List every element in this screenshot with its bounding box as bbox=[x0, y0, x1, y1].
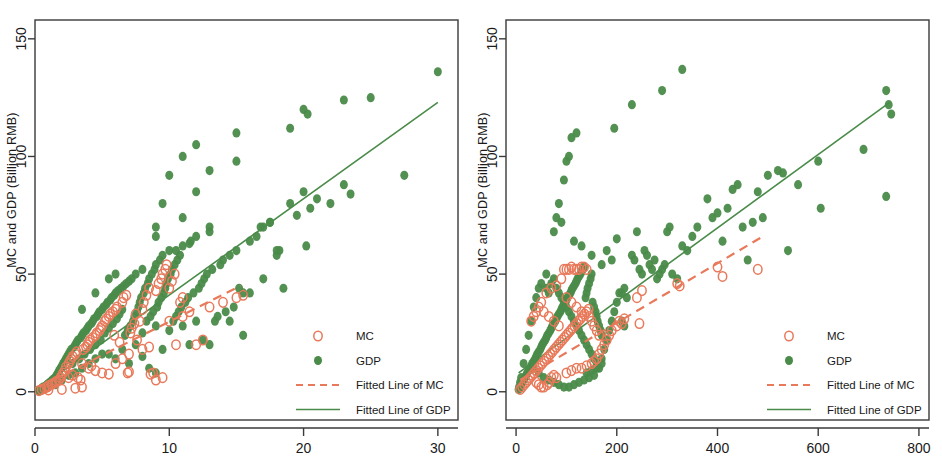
legend-label: Fitted Line of GDP bbox=[356, 404, 451, 416]
mc-point bbox=[577, 363, 585, 373]
gdp-point bbox=[550, 227, 558, 236]
gdp-point bbox=[206, 227, 214, 236]
gdp-point bbox=[817, 204, 825, 213]
gdp-point bbox=[613, 234, 621, 243]
gdp-point bbox=[542, 270, 550, 279]
gdp-point bbox=[784, 246, 792, 255]
gdp-point bbox=[555, 199, 563, 208]
gdp-point bbox=[304, 110, 312, 119]
gdp-point bbox=[159, 199, 167, 208]
gdp-point bbox=[744, 255, 752, 264]
gdp-point bbox=[628, 100, 636, 109]
gdp-point bbox=[887, 110, 895, 119]
gdp-point bbox=[759, 213, 767, 222]
gdp-point bbox=[749, 218, 757, 227]
gdp-point bbox=[610, 124, 618, 133]
series-gdp-points bbox=[34, 67, 442, 395]
gdp-point bbox=[603, 246, 611, 255]
legend: MCGDPFitted Line of MCFitted Line of GDP bbox=[296, 330, 451, 416]
gdp-point bbox=[112, 270, 120, 279]
gdp-point bbox=[794, 180, 802, 189]
data-layer bbox=[515, 65, 896, 394]
legend-marker-mc-icon bbox=[314, 331, 322, 341]
gdp-point bbox=[179, 152, 187, 161]
gdp-point bbox=[678, 65, 686, 74]
y-tick-label: 0 bbox=[13, 388, 29, 396]
x-tick-label: 0 bbox=[31, 440, 39, 456]
y-axis-label: MC and GDP (Billion RMB) bbox=[476, 112, 490, 267]
legend-label: MC bbox=[827, 330, 845, 342]
gdp-point bbox=[557, 218, 565, 227]
gdp-point bbox=[138, 265, 146, 274]
gdp-point bbox=[239, 331, 247, 340]
gdp-point bbox=[192, 140, 200, 149]
gdp-point bbox=[400, 171, 408, 180]
y-tick-label: 150 bbox=[484, 27, 500, 51]
mc-point bbox=[58, 385, 66, 395]
gdp-point bbox=[651, 255, 659, 264]
gdp-point bbox=[560, 175, 568, 184]
gdp-point bbox=[165, 171, 173, 180]
gdp-point bbox=[222, 307, 230, 316]
gdp-point bbox=[293, 211, 301, 220]
legend-label: GDP bbox=[827, 355, 852, 367]
fitted-line-mc bbox=[520, 236, 763, 380]
gdp-point bbox=[347, 190, 355, 199]
mc-point bbox=[122, 290, 130, 300]
gdp-point bbox=[814, 157, 822, 166]
gdp-point bbox=[302, 241, 310, 250]
gdp-point bbox=[638, 270, 646, 279]
gdp-point bbox=[179, 321, 187, 330]
gdp-point bbox=[620, 284, 628, 293]
legend-marker-mc-icon bbox=[785, 331, 793, 341]
gdp-point bbox=[326, 199, 334, 208]
gdp-point bbox=[152, 232, 160, 241]
series-mc-points bbox=[35, 260, 248, 395]
x-tick-label: 200 bbox=[605, 440, 629, 456]
gdp-point bbox=[159, 345, 167, 354]
gdp-point bbox=[78, 305, 86, 314]
gdp-point bbox=[565, 152, 573, 161]
gdp-point bbox=[860, 145, 868, 154]
gdp-point bbox=[367, 93, 375, 102]
gdp-point bbox=[232, 128, 240, 137]
gdp-point bbox=[666, 222, 674, 231]
x-tick-label: 400 bbox=[706, 440, 730, 456]
gdp-point bbox=[206, 166, 214, 175]
y-tick-label: 150 bbox=[13, 27, 29, 51]
gdp-point bbox=[286, 124, 294, 133]
gdp-point bbox=[179, 213, 187, 222]
gdp-point bbox=[643, 251, 651, 260]
scatter-figure: 0501001500102030MC and GDP (Billion RMB)… bbox=[0, 0, 942, 459]
legend-label: Fitted Line of GDP bbox=[827, 404, 922, 416]
right-panel: 0501001500200400600800MC and GDP (Billio… bbox=[471, 0, 942, 459]
gdp-point bbox=[703, 194, 711, 203]
gdp-point bbox=[132, 270, 140, 279]
plot-svg: 0501001500200400600800MC and GDP (Billio… bbox=[471, 0, 942, 459]
gdp-point bbox=[719, 237, 727, 246]
gdp-point bbox=[152, 222, 160, 231]
gdp-point bbox=[570, 237, 578, 246]
gdp-point bbox=[734, 180, 742, 189]
mc-point bbox=[205, 302, 213, 312]
mc-point bbox=[172, 340, 180, 350]
gdp-point bbox=[739, 222, 747, 231]
x-tick-label: 20 bbox=[296, 440, 312, 456]
legend-label: MC bbox=[356, 330, 374, 342]
gdp-point bbox=[608, 255, 616, 264]
gdp-point bbox=[313, 194, 321, 203]
mc-point bbox=[638, 286, 646, 296]
gdp-point bbox=[259, 274, 267, 283]
legend-label: GDP bbox=[356, 355, 381, 367]
gdp-point bbox=[658, 86, 666, 95]
mc-point bbox=[219, 298, 227, 308]
gdp-point bbox=[525, 331, 533, 340]
legend-label: Fitted Line of MC bbox=[827, 379, 915, 391]
gdp-point bbox=[693, 222, 701, 231]
gdp-point bbox=[633, 227, 641, 236]
mc-point bbox=[572, 363, 580, 373]
gdp-point bbox=[724, 204, 732, 213]
left-panel: 0501001500102030MC and GDP (Billion RMB)… bbox=[0, 0, 471, 459]
mc-point bbox=[754, 265, 762, 275]
gdp-point bbox=[714, 208, 722, 217]
